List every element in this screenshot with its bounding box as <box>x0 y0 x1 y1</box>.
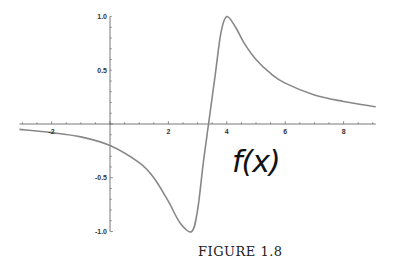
y-tick-label: -0.5 <box>95 174 107 181</box>
x-tick-label: 2 <box>166 128 170 135</box>
x-tick-label: 6 <box>283 128 287 135</box>
plot-area: -224681.00.5-0.5-1.0 <box>0 0 393 265</box>
y-tick-label: 0.5 <box>97 67 107 74</box>
y-tick-label: 1.0 <box>97 13 107 20</box>
x-tick-label: 4 <box>225 128 229 135</box>
x-tick-label: -2 <box>48 128 54 135</box>
function-label: f(x) <box>232 144 280 179</box>
figure-caption: FIGURE 1.8 <box>198 244 283 259</box>
axes <box>19 17 375 232</box>
x-tick-label: 8 <box>342 128 346 135</box>
y-tick-label: -1.0 <box>95 228 107 235</box>
